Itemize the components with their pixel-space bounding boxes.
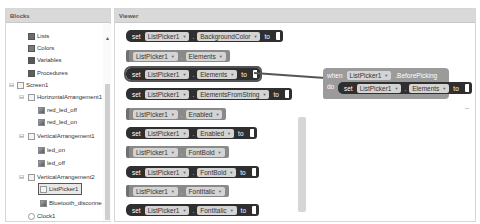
dot-separator: . — [404, 85, 406, 92]
input-socket — [285, 90, 289, 98]
dropdown-arrow-icon: ▼ — [384, 73, 388, 78]
component-dropdown[interactable]: ListPicker1▼ — [145, 129, 190, 138]
to-keyword: to — [241, 71, 246, 78]
variables-color-icon — [28, 57, 35, 64]
tree-item-screen1[interactable]: Screen1 — [17, 80, 48, 90]
input-socket — [252, 168, 256, 176]
dropdown-label: ListPicker1 — [136, 188, 168, 195]
dropdown-label: ListPicker1 — [148, 91, 180, 98]
input-socket — [250, 129, 254, 137]
component-dropdown[interactable]: ListPicker1▼ — [145, 90, 190, 99]
get-fontitalic-block[interactable]: ListPicker1▼ . FontItalic▼ — [126, 185, 229, 197]
dropdown-arrow-icon: ▼ — [394, 86, 398, 91]
property-dropdown[interactable]: Elements▼ — [186, 52, 226, 61]
tree-item-led-on[interactable]: led_on — [38, 145, 65, 155]
component-dropdown[interactable]: ListPicker1▼ — [145, 206, 190, 215]
collapse-toggle-icon[interactable]: ⊟ — [8, 82, 14, 88]
property-dropdown[interactable]: FontItalic▼ — [186, 187, 225, 196]
arrangement-icon — [28, 174, 35, 181]
dot-separator: . — [181, 188, 183, 195]
to-keyword: to — [241, 207, 246, 214]
tree-item-verticalarrangement1[interactable]: VerticalArrangement1 — [28, 131, 95, 141]
get-fontbold-block[interactable]: ListPicker1▼ . FontBold▼ — [126, 146, 229, 158]
tree-item-verticalarrangement2[interactable]: VerticalArrangement2 — [28, 172, 95, 182]
property-dropdown[interactable]: Elements▼ — [409, 84, 449, 93]
blocks-tree: Lists Colors Variables Procedures ⊟ Scre… — [6, 24, 102, 221]
set-enabled-block[interactable]: set ListPicker1▼ . Enabled▼ to — [126, 127, 257, 139]
component-dropdown[interactable]: ListPicker1▼ — [133, 187, 178, 196]
image-icon — [38, 160, 45, 167]
dropdown-label: ListPicker1 — [360, 85, 392, 92]
builtin-variables[interactable]: Variables — [28, 55, 62, 65]
property-dropdown[interactable]: BackgroundColor▼ — [197, 32, 260, 41]
event-name: .BeforePicking — [395, 72, 437, 79]
set-keyword: set — [132, 71, 141, 78]
image-icon — [40, 200, 47, 207]
property-dropdown[interactable]: Enabled▼ — [186, 110, 223, 119]
collapse-toggle-icon[interactable]: ⊟ — [18, 133, 24, 139]
lists-color-icon — [28, 33, 35, 40]
tree-item-listpicker1[interactable]: ListPicker1 — [38, 183, 82, 195]
set-elements-block[interactable]: set ListPicker1▼ . Elements▼ to — [126, 68, 260, 80]
dropdown-arrow-icon: ▼ — [263, 92, 267, 97]
get-enabled-block[interactable]: ListPicker1▼ . Enabled▼ — [126, 108, 226, 120]
builtin-procedures[interactable]: Procedures — [28, 68, 68, 78]
dropdown-arrow-icon: ▼ — [182, 72, 186, 77]
blocks-workspace[interactable]: set ListPicker1▼ . BackgroundColor▼ to L… — [115, 24, 475, 222]
set-elements-inner-block[interactable]: set ListPicker1▼ . Elements▼ to — [338, 82, 472, 94]
dropdown-arrow-icon: ▼ — [171, 112, 175, 117]
dropdown-arrow-icon: ▼ — [171, 189, 175, 194]
tree-item-horizontalarrangement1[interactable]: HorizontalArrangement1 — [28, 92, 102, 102]
component-dropdown[interactable]: ListPicker1▼ — [133, 52, 178, 61]
component-dropdown[interactable]: ListPicker1▼ — [145, 32, 190, 41]
dot-separator: . — [192, 130, 194, 137]
dropdown-arrow-icon: ▼ — [442, 86, 446, 91]
set-backgroundcolor-block[interactable]: set ListPicker1▼ . BackgroundColor▼ to — [126, 30, 283, 42]
property-dropdown[interactable]: ElementsFromString▼ — [197, 90, 269, 99]
to-keyword: to — [240, 169, 245, 176]
component-dropdown[interactable]: ListPicker1▼ — [133, 148, 178, 157]
collapse-toggle-icon[interactable]: ⊟ — [18, 174, 24, 180]
property-dropdown[interactable]: FontItalic▼ — [197, 206, 236, 215]
tree-scrollbar-thumb[interactable] — [105, 84, 110, 220]
scroll-up-arrow-icon[interactable]: ▲ — [105, 35, 110, 41]
tree-item-clock1[interactable]: Clock1 — [28, 211, 55, 221]
set-keyword: set — [132, 33, 141, 40]
drawer-scrollbar[interactable] — [298, 117, 306, 212]
dropdown-arrow-icon: ▼ — [182, 34, 186, 39]
set-keyword: set — [132, 169, 141, 176]
set-elementsfromstring-block[interactable]: set ListPicker1▼ . ElementsFromString▼ t… — [126, 88, 292, 100]
component-dropdown[interactable]: ListPicker1▼ — [133, 110, 178, 119]
tree-item-label: ListPicker1 — [49, 186, 78, 192]
arrangement-icon — [28, 94, 35, 101]
image-icon — [38, 119, 45, 126]
component-dropdown[interactable]: ListPicker1▼ — [145, 168, 190, 177]
get-elements-block[interactable]: ListPicker1▼ . Elements▼ — [126, 50, 230, 62]
colors-color-icon — [28, 45, 35, 52]
property-dropdown[interactable]: Enabled▼ — [197, 129, 234, 138]
component-dropdown[interactable]: ListPicker1▼ — [145, 70, 190, 79]
property-dropdown[interactable]: Elements▼ — [197, 70, 237, 79]
tree-item-label: red_led_off — [47, 107, 77, 113]
viewer-panel: Viewer set ListPicker1▼ . BackgroundColo… — [114, 8, 476, 222]
component-dropdown[interactable]: ListPicker1▼ — [347, 71, 392, 80]
tree-item-red-led-off[interactable]: red_led_off — [38, 105, 77, 115]
set-fontbold-block[interactable]: set ListPicker1▼ . FontBold▼ to — [126, 166, 259, 178]
set-fontitalic-block[interactable]: set ListPicker1▼ . FontItalic▼ to — [126, 204, 259, 216]
builtin-colors[interactable]: Colors — [28, 43, 54, 53]
collapse-toggle-icon[interactable]: ⊟ — [18, 94, 24, 100]
dot-separator: . — [181, 149, 183, 156]
property-dropdown[interactable]: FontBold▼ — [197, 168, 236, 177]
tree-item-led-off[interactable]: led_off — [38, 158, 65, 168]
dropdown-arrow-icon: ▼ — [215, 112, 219, 117]
tree-item-red-led-on[interactable]: red_led_on — [38, 117, 77, 127]
property-dropdown[interactable]: FontBold▼ — [186, 148, 225, 157]
tree-item-label: Colors — [37, 45, 54, 51]
component-dropdown[interactable]: ListPicker1▼ — [357, 84, 402, 93]
set-keyword: set — [344, 85, 353, 92]
event-block-beforepicking[interactable]: when ListPicker1▼ .BeforePicking do set … — [323, 68, 449, 99]
builtin-lists[interactable]: Lists — [28, 31, 49, 41]
tree-item-label: Bluetooth_disconnect — [49, 200, 102, 206]
dropdown-arrow-icon: ▼ — [182, 208, 186, 213]
tree-item-bluetooth-disconnect[interactable]: Bluetooth_disconnect — [40, 198, 102, 208]
